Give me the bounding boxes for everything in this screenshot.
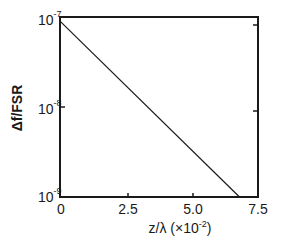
chart: 10-7 10-8 10-9 0 2.5 5.0 7.5 z/λ (×10-2)…: [0, 0, 282, 246]
y-axis-label: Δf/FSR: [9, 85, 25, 132]
plot-frame: [60, 17, 258, 197]
data-line: [60, 21, 240, 197]
x-tick-label-0: 0: [57, 201, 65, 217]
x-tick-labels: 0 2.5 5.0 7.5: [57, 201, 268, 217]
y-ticks: [60, 25, 258, 111]
x-axis-label: z/λ (×10-2): [149, 219, 212, 236]
x-tick-label-7.5: 7.5: [248, 201, 268, 217]
y-tick-label-1e-8: 10-8: [38, 98, 62, 117]
y-tick-label-1e-7: 10-7: [38, 9, 62, 28]
x-tick-label-5.0: 5.0: [183, 201, 203, 217]
x-tick-label-2.5: 2.5: [118, 201, 138, 217]
y-tick-labels: 10-7 10-8 10-9: [38, 9, 62, 205]
